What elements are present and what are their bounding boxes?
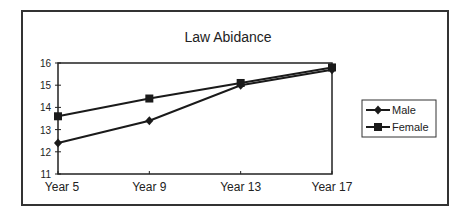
legend-label-female: Female — [392, 121, 429, 133]
x-tick-label: Year 5 — [45, 180, 80, 194]
square-marker-icon — [374, 123, 382, 131]
chart: Law Abidance 111213141516Year 5Year 9Yea… — [0, 0, 469, 219]
y-tick-label: 15 — [40, 80, 52, 91]
square-marker-icon — [237, 79, 245, 87]
y-tick-label: 13 — [40, 125, 52, 136]
y-tick-label: 16 — [40, 58, 52, 69]
y-tick-label: 11 — [41, 169, 52, 180]
square-marker-icon — [328, 63, 336, 71]
x-tick-label: Year 9 — [132, 180, 167, 194]
legend-label-male: Male — [392, 104, 416, 116]
y-tick-label: 14 — [40, 102, 52, 113]
legend: MaleFemale — [362, 100, 436, 137]
chart-title: Law Abidance — [184, 29, 271, 45]
square-marker-icon — [54, 112, 62, 120]
x-tick-label: Year 17 — [312, 180, 353, 194]
y-tick-label: 12 — [40, 147, 52, 158]
x-tick-label: Year 13 — [220, 180, 261, 194]
square-marker-icon — [145, 95, 153, 103]
